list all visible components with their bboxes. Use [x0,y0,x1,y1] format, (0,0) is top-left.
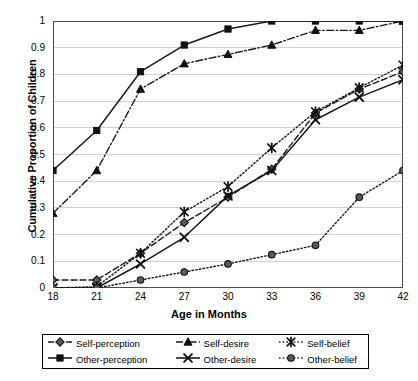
data-point [181,42,187,48]
data-point [356,21,362,24]
data-point [355,93,363,101]
data-point [312,21,318,24]
series-line-self-belief [53,65,403,288]
chart-figure: Cumulative Proportion of Children 00.10.… [0,0,418,381]
legend-label-other-belief: Other-belief [307,354,357,365]
data-point [94,127,100,133]
x-axis-tick-label: 39 [344,292,374,302]
self-belief-symbol [278,336,304,350]
x-axis-tick-label: 27 [169,292,199,302]
legend-label-self-perception: Self-perception [76,338,140,349]
x-axis-tick-label: 24 [126,292,156,302]
data-point [137,69,143,75]
series-line-other-perception [53,21,403,171]
other-belief-symbol [278,352,304,366]
legend-item-other-belief[interactable]: Other-belief [278,352,368,366]
data-point [93,285,100,288]
legend-label-self-belief: Self-belief [307,338,349,349]
legend-label-other-perception: Other-perception [76,354,147,365]
data-point [224,182,232,191]
legend-item-self-perception[interactable]: Self-perception [47,336,175,350]
x-axis-tick-label: 33 [257,292,287,302]
data-point [399,60,403,69]
legend-row-2: Other-perception Other-desire Other-beli… [43,351,368,367]
data-point [181,269,188,276]
data-point [137,85,145,92]
series-line-self-perception [53,72,403,280]
y-axis-tick-label: 1 [11,16,45,26]
data-point [269,21,275,24]
legend-row-1: Self-perception Self-desire Self-belief [43,335,368,351]
x-axis-tick-label: 30 [213,292,243,302]
y-axis-tick-label: 0.1 [11,256,45,266]
legend-item-other-desire[interactable]: Other-desire [175,352,279,366]
other-desire-symbol [175,352,201,366]
other-perception-symbol [47,352,73,366]
data-point [225,26,231,32]
data-point [224,50,232,57]
x-axis-tick-label: 21 [82,292,112,302]
data-point [312,242,319,249]
data-point [268,143,276,152]
x-axis-title: Age in Months [0,308,418,320]
x-axis-tick-label: 42 [388,292,418,302]
y-axis-title: Cumulative Proportion of Children [26,36,38,256]
self-desire-symbol [175,336,201,350]
data-point [180,207,188,216]
self-perception-symbol [47,336,73,350]
x-axis-tick-label: 18 [38,292,68,302]
legend-label-other-desire: Other-desire [204,354,257,365]
data-point [356,194,363,201]
data-point [53,167,56,173]
data-point [268,251,275,258]
legend-item-other-perception[interactable]: Other-perception [47,352,175,366]
chart-legend: Self-perception Self-desire Self-belief … [42,334,369,369]
legend-label-self-desire: Self-desire [204,338,249,349]
x-axis-tick-label: 36 [301,292,331,302]
data-point [137,277,144,284]
legend-item-self-belief[interactable]: Self-belief [278,336,368,350]
chart-canvas [53,21,403,288]
data-point [400,167,403,174]
legend-item-self-desire[interactable]: Self-desire [175,336,279,350]
data-point [93,166,101,173]
data-point [225,261,232,268]
plot-area [53,21,403,288]
